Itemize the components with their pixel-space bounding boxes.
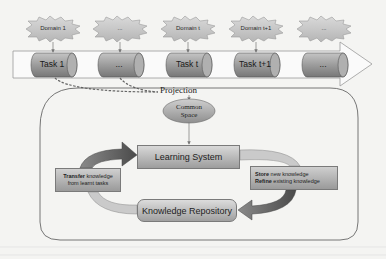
domain-label-1: Domain 1 (28, 25, 78, 31)
task-label-1: Task 1 (32, 59, 72, 69)
task-label-5: ... (303, 59, 343, 69)
common-space-line1: Common (164, 103, 214, 111)
domain-task-connectors (53, 42, 256, 52)
refine-rest: existing knowledge (272, 178, 320, 184)
store-rest: new knowledge (269, 171, 308, 177)
domain-label-5: ... (299, 25, 349, 31)
common-space-label: Common Space (164, 103, 214, 119)
page-bleed-through (0, 247, 386, 255)
learning-system-label: Learning System (155, 152, 223, 162)
projection-dashed-lines (55, 78, 158, 92)
store-refine-box: Store new knowledge Refine existing know… (250, 166, 338, 190)
store-bold: Store (255, 171, 269, 177)
knowledge-repository-label: Knowledge Repository (142, 206, 232, 216)
task-label-2: ... (99, 59, 139, 69)
learning-system-box: Learning System (137, 145, 240, 169)
transfer-bold: Transfer (63, 173, 85, 179)
transfer-line2: from learnt tasks (63, 180, 113, 187)
refine-bold: Refine (255, 178, 272, 184)
task-label-3: Task t (167, 59, 207, 69)
transfer-knowledge-box: Transfer knowledge from learnt tasks (55, 168, 121, 192)
domain-label-2: ... (95, 25, 145, 31)
knowledge-repository-box: Knowledge Repository (137, 199, 237, 222)
task-label-4: Task t+1 (235, 59, 275, 69)
domain-label-4: Domain t+1 (231, 25, 281, 31)
transfer-rest: knowledge (85, 173, 113, 179)
projection-label: Projection (160, 85, 197, 95)
domain-label-3: Domain t (163, 25, 213, 31)
common-space-line2: Space (164, 111, 214, 119)
